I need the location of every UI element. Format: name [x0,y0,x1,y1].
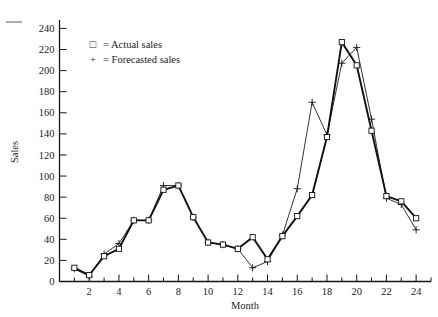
x-tick-label: 8 [176,286,181,297]
y-axis-tick-labels: 020406080100120140160180200220240 [39,23,55,287]
y-tick-label: 140 [39,128,55,139]
chart-legend: □= Actual sales+= Forecasted sales [90,39,180,65]
data-point-marker-square [310,192,315,197]
data-point-marker-square [295,214,300,219]
series-markers-forecast [71,44,420,280]
data-point-marker-square [176,183,181,188]
data-point-marker-square [146,218,151,223]
y-tick-label: 60 [44,213,55,224]
series-line-actual [74,42,416,275]
x-axis-tick-labels: 24681012141618202224 [87,286,423,297]
legend-label: = Actual sales [103,39,162,50]
x-tick-label: 20 [351,286,362,297]
y-tick-label: 160 [39,107,55,118]
data-point-marker-square [87,273,92,278]
y-axis-title: Sales [9,141,20,163]
x-axis-title: Month [231,300,260,311]
y-axis-ticks [60,28,67,281]
data-point-marker-square [369,128,374,133]
data-point-marker-square [191,215,196,220]
y-tick-label: 40 [44,234,55,245]
x-tick-label: 2 [87,286,92,297]
data-point-marker-square [265,257,270,262]
data-point-marker-square [384,193,389,198]
y-tick-label: 180 [39,86,55,97]
y-tick-label: 240 [39,23,55,34]
y-tick-label: 20 [44,255,55,266]
y-tick-label: 200 [39,65,55,76]
legend-symbol-square: □ [90,39,97,50]
data-point-marker-square [250,235,255,240]
y-tick-label: 120 [39,150,55,161]
data-point-marker-square [101,254,106,259]
sales-forecast-chart: 020406080100120140160180200220240 246810… [0,0,438,317]
y-tick-label: 80 [44,192,55,203]
data-point-marker-square [354,63,359,68]
chart-canvas: 020406080100120140160180200220240 246810… [0,0,438,317]
x-tick-label: 14 [262,286,273,297]
data-point-marker-square [414,216,419,221]
data-point-marker-square [220,242,225,247]
data-point-marker-square [280,234,285,239]
data-series-layer [71,40,420,280]
data-point-marker-square [131,218,136,223]
x-tick-label: 12 [233,286,244,297]
y-tick-label: 100 [39,171,55,182]
x-tick-label: 10 [203,286,214,297]
legend-label: = Forecasted sales [103,54,180,65]
x-tick-label: 22 [381,286,392,297]
y-tick-label: 0 [49,276,54,287]
data-point-marker-square [161,187,166,192]
data-point-marker-square [339,40,344,45]
x-tick-label: 18 [322,286,333,297]
x-tick-label: 16 [292,286,303,297]
data-point-marker-square [399,199,404,204]
y-tick-label: 220 [39,44,55,55]
data-point-marker-square [324,134,329,139]
legend-symbol-plus: + [90,54,96,65]
data-point-marker-square [116,246,121,251]
x-tick-label: 24 [411,286,422,297]
x-tick-label: 4 [116,286,122,297]
data-point-marker-square [206,240,211,245]
data-point-marker-square [235,246,240,251]
data-point-marker-square [72,265,77,270]
x-tick-label: 6 [146,286,151,297]
